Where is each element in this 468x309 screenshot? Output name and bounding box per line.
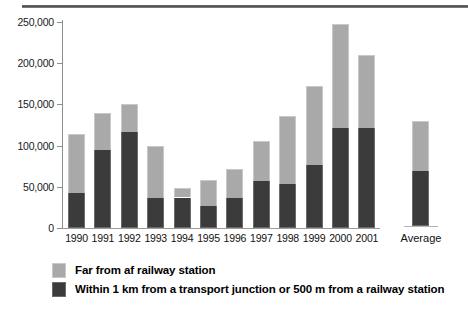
bar-segment-far (94, 113, 111, 150)
y-axis-tick-label: 50,000 (23, 181, 54, 193)
bar-segment-far (121, 104, 138, 133)
bar-1998 (279, 22, 296, 228)
bar-average (412, 22, 429, 226)
legend-label-within: Within 1 km from a transport junction or… (75, 283, 444, 295)
x-axis-label-1996: 1996 (221, 232, 248, 244)
bar-1995 (200, 22, 217, 228)
bar-1996 (226, 22, 243, 228)
bar-1993 (147, 22, 164, 228)
bar-1991 (94, 22, 111, 228)
legend-item-within: Within 1 km from a transport junction or… (52, 281, 464, 297)
x-axis-label-1991: 1991 (89, 232, 116, 244)
legend-label-far: Far from af railway station (75, 264, 215, 276)
bar-segment-within (174, 198, 191, 228)
y-axis-tick (57, 228, 63, 229)
chart-legend: Far from af railway station Within 1 km … (52, 262, 464, 300)
x-axis-label-1997: 1997 (248, 232, 275, 244)
legend-item-far: Far from af railway station (52, 262, 464, 278)
bar-segment-within (121, 132, 138, 228)
bar-segment-within (332, 128, 349, 228)
legend-swatch-light-icon (52, 263, 66, 278)
x-axis-label-1993: 1993 (142, 232, 169, 244)
x-axis-label-1998: 1998 (274, 232, 301, 244)
bar-segment-far (279, 116, 296, 184)
bar-segment-far (253, 141, 270, 181)
bar-segment-within (412, 171, 429, 226)
y-axis-tick (57, 187, 63, 188)
bar-segment-far (174, 188, 191, 198)
x-axis-label-1992: 1992 (116, 232, 143, 244)
bar-segment-within (200, 206, 217, 228)
bar-segment-far (332, 24, 349, 129)
y-axis-tick (57, 104, 63, 105)
x-axis-line-average (404, 226, 438, 227)
x-axis-label-average: Average (398, 232, 444, 244)
y-axis-tick (57, 22, 63, 23)
bar-segment-within (279, 184, 296, 228)
y-axis-tick (57, 146, 63, 147)
bar-segment-within (147, 198, 164, 228)
bar-segment-within (306, 165, 323, 228)
y-axis-line (62, 20, 63, 229)
bar-2000 (332, 22, 349, 228)
y-axis-tick-label: 100,000 (17, 140, 54, 152)
bar-1994 (174, 22, 191, 228)
bar-1999 (306, 22, 323, 228)
bar-segment-within (68, 193, 85, 228)
bar-segment-far (306, 86, 323, 164)
y-axis-tick (57, 63, 63, 64)
bar-segment-far (68, 134, 85, 193)
bar-segment-far (200, 180, 217, 206)
x-axis-label-2001: 2001 (353, 232, 380, 244)
x-axis-label-1990: 1990 (63, 232, 90, 244)
bar-segment-within (253, 181, 270, 228)
bar-segment-within (358, 128, 375, 228)
bar-1992 (121, 22, 138, 228)
x-axis-label-1995: 1995 (195, 232, 222, 244)
bar-2001 (358, 22, 375, 228)
x-axis-label-1994: 1994 (169, 232, 196, 244)
bar-1997 (253, 22, 270, 228)
y-axis-tick-label: 150,000 (17, 98, 54, 110)
bar-segment-far (358, 55, 375, 128)
bar-segment-far (412, 121, 429, 171)
y-axis-tick-label: 250,000 (17, 16, 54, 28)
x-axis-line (62, 228, 380, 229)
x-axis-label-2000: 2000 (327, 232, 354, 244)
bar-segment-within (94, 150, 111, 228)
y-axis-tick-label: 0 (48, 222, 54, 234)
bar-segment-far (147, 146, 164, 197)
bar-segment-within (226, 198, 243, 228)
bar-1990 (68, 22, 85, 228)
bar-segment-far (226, 169, 243, 199)
legend-swatch-dark-icon (52, 282, 66, 297)
x-axis-label-1999: 1999 (301, 232, 328, 244)
y-axis-tick-label: 200,000 (17, 57, 54, 69)
